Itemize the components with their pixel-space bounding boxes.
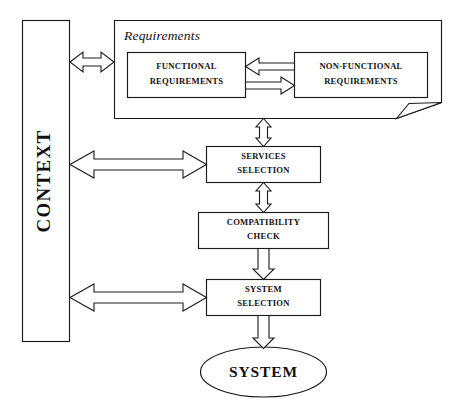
system-selection-label-line2: SELECTION [237,298,290,308]
node-system-selection[interactable]: SYSTEM SELECTION [207,280,321,316]
node-functional-requirements[interactable]: FUNCTIONAL REQUIREMENTS [128,53,246,98]
compatibility-check-label-line2: CHECK [247,231,280,241]
node-system[interactable]: SYSTEM [201,347,327,397]
connector-system-selection-to-system [253,316,274,349]
flow-diagram: CONTEXT Requirements FUNCTIONAL REQUIREM… [0,0,458,414]
double-arrow-icon [70,151,207,178]
double-arrow-vertical-icon [256,183,271,213]
compatibility-check-label-line1: COMPATIBILITY [227,217,301,227]
functional-requirements-label-line2: REQUIREMENTS [150,76,224,86]
connector-services-selection-to-compatibility-check [256,183,271,213]
system-selection-label-line1: SYSTEM [245,284,282,294]
connector-context-to-requirements [70,52,114,72]
functional-requirements-label-line1: FUNCTIONAL [156,61,216,71]
node-context[interactable]: CONTEXT [23,21,70,342]
diagram-canvas: CONTEXT Requirements FUNCTIONAL REQUIREM… [0,0,458,414]
down-arrow-icon [253,316,274,349]
node-compatibility-check[interactable]: COMPATIBILITY CHECK [199,213,329,249]
services-selection-label-line2: SELECTION [237,165,290,175]
node-services-selection[interactable]: SERVICES SELECTION [207,147,321,183]
services-selection-label-line1: SERVICES [241,151,286,161]
non-functional-requirements-label-line2: REQUIREMENTS [324,76,398,86]
double-arrow-vertical-icon [256,119,271,147]
non-functional-requirements-label-line1: NON-FUNCTIONAL [319,61,402,71]
double-arrow-icon [70,52,114,72]
system-label: SYSTEM [229,363,298,380]
down-arrow-icon [253,249,274,280]
connector-requirements-to-services-selection [256,119,271,147]
node-non-functional-requirements[interactable]: NON-FUNCTIONAL REQUIREMENTS [295,53,428,98]
double-arrow-icon [70,284,207,311]
connector-compatibility-check-to-system-selection [253,249,274,280]
connector-context-to-system-selection [70,284,207,311]
connector-context-to-services-selection [70,151,207,178]
requirements-label: Requirements [123,28,200,43]
context-label: CONTEXT [33,129,54,232]
